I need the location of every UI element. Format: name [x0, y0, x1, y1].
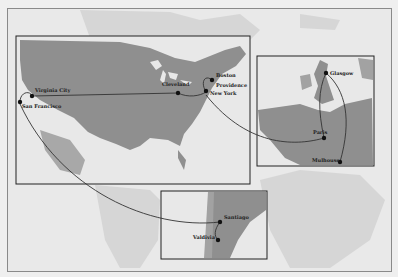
label-virginia-city: Virginia City — [34, 87, 71, 94]
route-map: Virginia City San Francisco Cleveland Bo… — [0, 0, 398, 277]
label-paris: Paris — [313, 129, 327, 135]
label-providence: Providence — [216, 82, 247, 88]
marker-cleveland — [176, 91, 180, 95]
marker-glasgow — [324, 71, 328, 75]
inset-north-america — [16, 36, 250, 184]
label-valdivia: Valdivia — [192, 234, 216, 240]
label-boston: Boston — [216, 72, 236, 78]
marker-valdivia — [216, 238, 220, 242]
map-page: Virginia City San Francisco Cleveland Bo… — [0, 0, 398, 277]
label-mulhouse: Mulhouse — [312, 157, 340, 163]
label-glasgow: Glasgow — [330, 70, 354, 77]
marker-boston — [210, 78, 214, 82]
marker-paris — [322, 136, 326, 140]
label-san-francisco: San Francisco — [22, 103, 62, 109]
label-cleveland: Cleveland — [162, 81, 190, 87]
marker-santiago — [218, 220, 222, 224]
marker-new-york — [204, 89, 208, 93]
label-new-york: New York — [210, 90, 237, 96]
label-santiago: Santiago — [224, 214, 249, 221]
marker-virginia-city — [30, 94, 34, 98]
inset-europe — [257, 56, 374, 166]
inset-south-america — [161, 191, 267, 259]
